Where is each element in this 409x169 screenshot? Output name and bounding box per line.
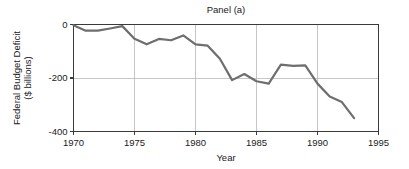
xtick-label: 1975 xyxy=(124,137,145,148)
x-axis-title: Year xyxy=(216,152,235,163)
ytick-label: -400 xyxy=(48,126,67,137)
xtick-label: 1980 xyxy=(185,137,206,148)
ytick-label: -200 xyxy=(48,72,67,83)
xtick-label: 1985 xyxy=(246,137,267,148)
y-axis-title-line2: ($ billions) xyxy=(22,56,33,99)
chart-title: Panel (a) xyxy=(207,4,246,15)
xtick-label: 1995 xyxy=(368,137,389,148)
data-series-line xyxy=(74,25,355,118)
y-axis-title-line1: Federal Budget Deficit xyxy=(11,31,22,125)
chart-figure: Panel (a)0-200-4001970197519801985199019… xyxy=(0,0,409,169)
ytick-label: 0 xyxy=(62,19,67,30)
line-chart: Panel (a)0-200-4001970197519801985199019… xyxy=(0,0,409,169)
xtick-label: 1970 xyxy=(63,137,84,148)
xtick-label: 1990 xyxy=(307,137,328,148)
